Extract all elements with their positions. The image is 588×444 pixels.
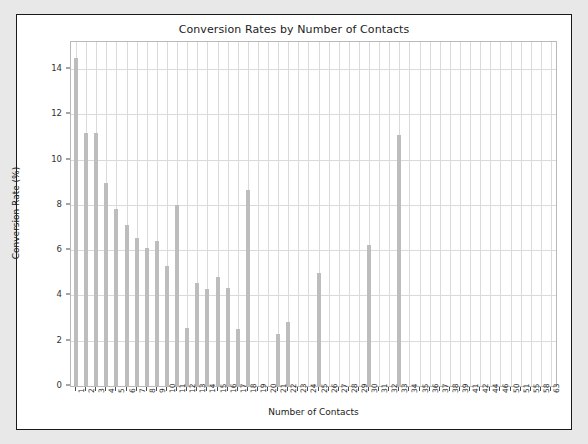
x-tick-label: 50 (513, 383, 521, 393)
gridline-vertical (359, 42, 360, 386)
x-tick-mark (156, 387, 157, 391)
bar (317, 273, 321, 386)
gridline-vertical (268, 42, 269, 386)
x-tick-mark (166, 387, 167, 391)
bar (145, 248, 149, 386)
bar (135, 238, 139, 386)
gridline-vertical (450, 42, 451, 386)
x-tick-mark (227, 387, 228, 391)
x-tick-mark (510, 387, 511, 391)
gridline-vertical (409, 42, 410, 386)
gridline-vertical (430, 42, 431, 386)
gridline-vertical (470, 42, 471, 386)
gridline-vertical (349, 42, 350, 386)
x-tick-mark (368, 387, 369, 391)
bar (286, 322, 290, 387)
x-tick-mark (550, 387, 551, 391)
x-axis-title: Number of Contacts (70, 407, 557, 417)
gridline-horizontal (71, 69, 556, 70)
gridline-vertical (490, 42, 491, 386)
bar (125, 225, 129, 386)
gridline-vertical (308, 42, 309, 386)
x-tick-mark (115, 387, 116, 391)
x-tick-mark (287, 387, 288, 391)
bar (155, 241, 159, 386)
bar (94, 133, 98, 386)
gridline-vertical (329, 42, 330, 386)
x-tick-mark (398, 387, 399, 391)
bar (175, 205, 179, 386)
gridline-vertical (379, 42, 380, 386)
gridline-horizontal (71, 295, 556, 296)
x-tick-mark (328, 387, 329, 391)
x-tick-mark (75, 387, 76, 391)
x-tick-mark (105, 387, 106, 391)
x-tick-mark (419, 387, 420, 391)
gridline-vertical (531, 42, 532, 386)
gridline-vertical (480, 42, 481, 386)
x-tick-mark (348, 387, 349, 391)
x-tick-mark (318, 387, 319, 391)
x-tick-mark (439, 387, 440, 391)
x-tick-label: 14 (209, 383, 217, 393)
x-tick-mark (388, 387, 389, 391)
bar (205, 289, 209, 386)
x-tick-mark (520, 387, 521, 391)
gridline-vertical (521, 42, 522, 386)
x-tick-mark (136, 387, 137, 391)
x-tick-mark (206, 387, 207, 391)
bar (226, 288, 230, 386)
y-tick-label: 4 (57, 289, 62, 299)
gridline-vertical (500, 42, 501, 386)
x-tick-mark (469, 387, 470, 391)
x-tick-label: 24 (310, 383, 318, 393)
x-tick-label: 16 (230, 383, 238, 393)
gridline-vertical (460, 42, 461, 386)
x-tick-mark (530, 387, 531, 391)
x-tick-mark (338, 387, 339, 391)
bar (246, 190, 250, 386)
x-tick-mark (358, 387, 359, 391)
x-tick-label: 25 (321, 383, 329, 393)
x-tick-label: 15 (220, 383, 228, 393)
x-tick-mark (479, 387, 480, 391)
x-tick-mark (247, 387, 248, 391)
x-tick-mark (489, 387, 490, 391)
gridline-vertical (258, 42, 259, 386)
bar (397, 135, 401, 386)
chart-title: Conversion Rates by Number of Contacts (17, 23, 571, 36)
x-tick-mark (378, 387, 379, 391)
bar (114, 209, 118, 386)
gridline-horizontal (71, 160, 556, 161)
x-tick-mark (237, 387, 238, 391)
bar (367, 245, 371, 386)
y-tick-label: 0 (57, 380, 62, 390)
gridline-vertical (339, 42, 340, 386)
x-tick-mark (449, 387, 450, 391)
y-tick-label: 6 (57, 244, 62, 254)
x-tick-mark (499, 387, 500, 391)
x-tick-label: 34 (411, 383, 419, 393)
x-tick-mark (267, 387, 268, 391)
gridline-horizontal (71, 341, 556, 342)
y-tick-label: 8 (57, 199, 62, 209)
x-tick-mark (257, 387, 258, 391)
gridline-vertical (389, 42, 390, 386)
bar (84, 133, 88, 386)
bar (165, 266, 169, 386)
x-tick-label: 6 (129, 388, 137, 393)
chart-figure: Conversion Rates by Number of Contacts C… (16, 14, 572, 430)
bar (195, 283, 199, 386)
gridline-vertical (511, 42, 512, 386)
gridline-vertical (298, 42, 299, 386)
x-tick-mark (429, 387, 430, 391)
x-tick-label: 46 (502, 383, 510, 393)
x-tick-label: 51 (523, 383, 531, 393)
x-tick-mark (176, 387, 177, 391)
bar (236, 329, 240, 386)
x-tick-label: 63 (553, 383, 561, 393)
gridline-vertical (551, 42, 552, 386)
x-tick-mark (196, 387, 197, 391)
x-tick-label: 5 (118, 388, 126, 393)
gridline-horizontal (71, 250, 556, 251)
